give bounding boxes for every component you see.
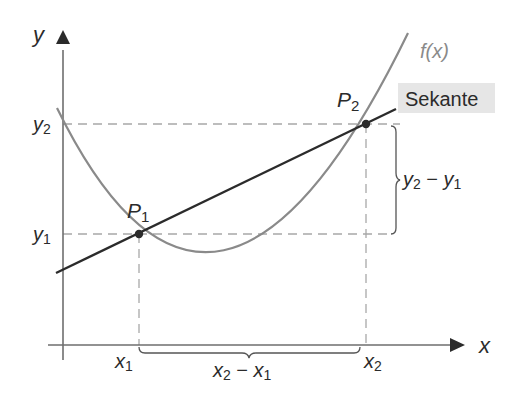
axes (48, 50, 452, 360)
y2-label: y2 (31, 113, 51, 137)
secant-diagram: Sekante f(x) y x y2 y1 P1 P2 x1 x2 x2 − … (0, 0, 531, 401)
x1-label: x1 (114, 350, 133, 374)
function-curve (57, 33, 408, 252)
p1-label: P1 (127, 199, 149, 225)
point-p1 (135, 230, 143, 238)
p2-label: P2 (337, 88, 359, 114)
x-axis-arrow-icon (450, 338, 465, 352)
y-axis-label: y (31, 22, 46, 47)
delta-x-brace (139, 347, 360, 358)
delta-y-brace (391, 126, 400, 234)
helper-lines (63, 124, 400, 345)
delta-x-label: x2 − x1 (212, 359, 272, 383)
y1-label: y1 (31, 223, 51, 247)
x-axis-label: x (478, 333, 491, 358)
secant-label: Sekante (405, 88, 478, 110)
y-axis-arrow-icon (56, 30, 70, 44)
function-label: f(x) (420, 40, 449, 62)
point-p2 (362, 120, 370, 128)
x2-label: x2 (363, 350, 382, 374)
delta-y-label: y2 − y1 (401, 168, 462, 192)
